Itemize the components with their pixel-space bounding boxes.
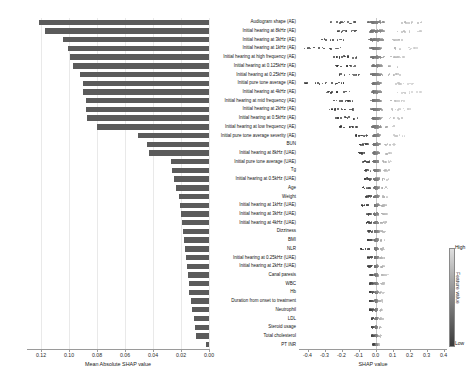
beeswarm-row (299, 131, 447, 140)
beeswarm-dot (401, 117, 403, 119)
shap-bar (189, 281, 209, 286)
shap-bar (97, 124, 209, 129)
beeswarm-dot (384, 21, 386, 23)
beeswarm-x-tick-label: -0.4 (303, 352, 312, 358)
feature-label: Initial hearing at 2kHz (AE) (242, 107, 296, 112)
shap-bar (191, 298, 209, 303)
beeswarm-dot (371, 274, 373, 276)
beeswarm-dot (393, 143, 395, 145)
beeswarm-x-axis-line (299, 349, 447, 350)
shap-bar (149, 150, 209, 155)
shap-bar (196, 333, 209, 338)
beeswarm-dot (385, 222, 387, 224)
bar-row (27, 244, 209, 253)
beeswarm-dot (377, 222, 379, 224)
shap-bar (176, 185, 209, 190)
feature-label: NLR (287, 247, 296, 252)
beeswarm-dot (347, 100, 349, 102)
bar-row (27, 44, 209, 53)
beeswarm-x-tick-label: 0.2 (406, 352, 413, 358)
feature-label: BMI (288, 238, 296, 243)
beeswarm-dot (354, 21, 356, 23)
beeswarm-dot (379, 152, 381, 154)
beeswarm-dot (376, 291, 378, 293)
feature-label: Weight (282, 194, 296, 199)
beeswarm-dot (355, 126, 357, 128)
beeswarm-dot (349, 23, 351, 25)
shap-bar (187, 264, 209, 269)
bar-row (27, 62, 209, 71)
beeswarm-dot (381, 40, 383, 42)
beeswarm-row (299, 166, 447, 175)
beeswarm-dot (375, 82, 377, 84)
feature-label: Initial hearing at low frequency (AE) (225, 125, 296, 130)
beeswarm-dot (376, 204, 378, 206)
shap-bar (188, 272, 209, 277)
bar-row (27, 201, 209, 210)
beeswarm-dot (313, 47, 315, 49)
beeswarm-x-tick-label: 0.1 (389, 352, 396, 358)
beeswarm-dot (380, 65, 382, 67)
beeswarm-dot (358, 135, 360, 137)
shap-bar (83, 89, 209, 94)
beeswarm-dot (376, 91, 378, 93)
feature-label: Dizziness (277, 229, 296, 234)
beeswarm-dot (381, 239, 383, 241)
beeswarm-dot (342, 30, 344, 32)
beeswarm-dot (369, 187, 371, 189)
beeswarm-dot (375, 144, 377, 146)
bar-row (27, 105, 209, 114)
beeswarm-dot (356, 56, 358, 58)
beeswarm-dot (380, 317, 382, 319)
feature-label: Initial hearing at 8kHz (UAE) (239, 151, 296, 156)
beeswarm-dot (340, 66, 342, 68)
beeswarm-dot (375, 309, 377, 311)
beeswarm-dot (381, 126, 383, 128)
colorbar-high-label: High (455, 244, 465, 250)
beeswarm-dot (380, 57, 382, 59)
beeswarm-dot (353, 74, 355, 76)
beeswarm-dot (378, 82, 380, 84)
bar-row (27, 314, 209, 323)
beeswarm-dot (400, 108, 402, 110)
beeswarm-dot (330, 48, 332, 50)
beeswarm-row (299, 149, 447, 158)
beeswarm-dot (391, 108, 393, 110)
bar-x-tick-label: 0.02 (176, 352, 186, 358)
feature-label: Initial hearing at high frequency (AE) (223, 55, 296, 60)
shap-bar (182, 220, 209, 225)
beeswarm-dot (340, 73, 342, 75)
beeswarm-dot (322, 83, 324, 85)
beeswarm-dot (409, 92, 411, 94)
beeswarm-dot (367, 195, 369, 197)
bar-row (27, 175, 209, 184)
beeswarm-dot (382, 293, 384, 295)
feature-label: Initial hearing at 0.25kHz (AE) (236, 72, 296, 77)
beeswarm-dot (340, 47, 342, 49)
bar-x-tick-label: 0.10 (64, 352, 74, 358)
beeswarm-dot (337, 108, 339, 110)
beeswarm-dot (363, 153, 365, 155)
beeswarm-row (299, 192, 447, 201)
feature-label: Initial hearing at 1kHz (AE) (242, 46, 296, 51)
beeswarm-dot (349, 126, 351, 128)
beeswarm-dot (340, 125, 342, 127)
beeswarm-dot (351, 30, 353, 32)
beeswarm-row (299, 340, 447, 349)
beeswarm-dot (337, 117, 339, 119)
bar-row (27, 18, 209, 27)
feature-label: Total cholesterol (263, 334, 296, 339)
bar-row (27, 340, 209, 349)
feature-label: Initial hearing at 0.5kHz (UAE) (235, 177, 296, 182)
beeswarm-dot (325, 39, 327, 41)
beeswarm-row (299, 79, 447, 88)
shap-bar (174, 176, 209, 181)
beeswarm-dot (336, 91, 338, 93)
feature-label: Initial pure tone average (UAE) (234, 159, 296, 164)
bar-row (27, 88, 209, 97)
beeswarm-dot (380, 30, 382, 32)
beeswarm-row (299, 314, 447, 323)
bar-row (27, 149, 209, 158)
beeswarm-dot (361, 204, 363, 206)
beeswarm-row (299, 184, 447, 193)
